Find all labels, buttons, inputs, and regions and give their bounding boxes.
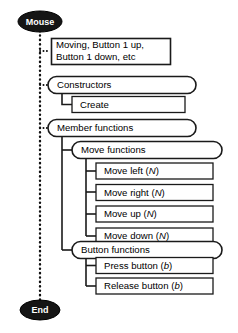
diagram-canvas: Mouse Moving, Button 1 up, Button 1 down… (0, 0, 238, 333)
events-note-line2: Button 1 down, etc (56, 51, 136, 62)
move-down-label: Move down (N) (104, 230, 169, 241)
button-functions-label: Button functions (81, 244, 150, 255)
member-functions-label: Member functions (57, 122, 133, 133)
events-note-box: Moving, Button 1 up, Button 1 down, etc (52, 39, 171, 65)
start-node-mouse: Mouse (18, 11, 62, 32)
group-button-functions[interactable]: Button functions (72, 242, 222, 259)
release-button-label: Release button (b) (104, 280, 183, 291)
start-node-label: Mouse (26, 17, 55, 27)
node-create[interactable]: Create (72, 97, 185, 113)
end-node-label: End (32, 305, 49, 315)
node-move-left[interactable]: Move left (N) (96, 163, 213, 179)
press-button-label: Press button (b) (104, 259, 172, 270)
branch-member-functions[interactable]: Member functions (48, 120, 196, 137)
branch-constructors[interactable]: Constructors (48, 77, 196, 94)
move-left-label: Move left (N) (104, 165, 159, 176)
move-up-label: Move up (N) (104, 208, 157, 219)
constructors-label: Constructors (57, 79, 112, 90)
node-press-button[interactable]: Press button (b) (96, 258, 213, 274)
move-right-label: Move right (N) (104, 186, 165, 197)
node-release-button[interactable]: Release button (b) (96, 278, 213, 294)
create-label: Create (80, 99, 109, 110)
connector-constructors-to-create (62, 94, 72, 105)
group-move-functions[interactable]: Move functions (72, 142, 222, 159)
node-move-up[interactable]: Move up (N) (96, 206, 213, 222)
end-node: End (20, 300, 60, 320)
move-functions-label: Move functions (81, 144, 146, 155)
mouse-hierarchy-diagram: Mouse Moving, Button 1 up, Button 1 down… (0, 0, 238, 333)
node-move-right[interactable]: Move right (N) (96, 185, 213, 201)
events-note-line1: Moving, Button 1 up, (56, 39, 144, 50)
